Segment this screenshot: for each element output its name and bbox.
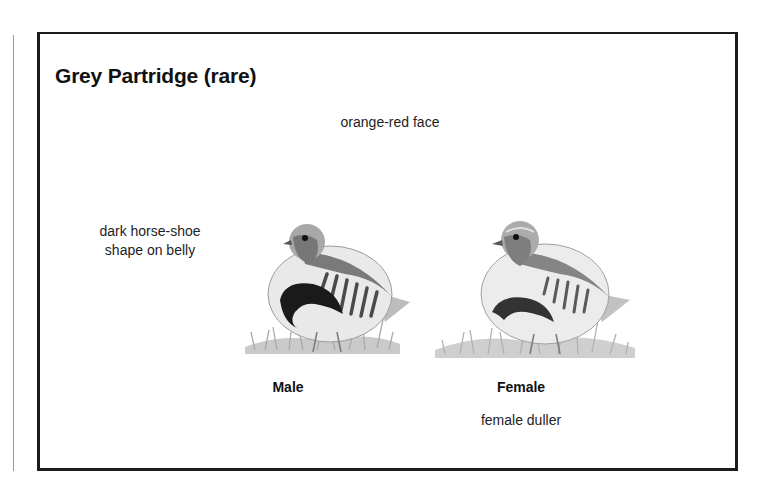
female-partridge-illustration xyxy=(430,182,645,362)
female-duller-annotation: female duller xyxy=(481,412,561,428)
face-annotation: orange-red face xyxy=(341,114,440,130)
eye-icon xyxy=(302,235,308,241)
species-card: Grey Partridge (rare) orange-red face da… xyxy=(37,32,738,471)
belly-annotation-line-2: shape on belly xyxy=(99,241,200,260)
eye-icon xyxy=(513,234,519,240)
male-partridge-illustration xyxy=(225,182,420,357)
belly-annotation-line-1: dark horse-shoe xyxy=(99,222,200,241)
species-title: Grey Partridge (rare) xyxy=(55,64,256,88)
beak-icon xyxy=(283,240,292,245)
female-caption: Female xyxy=(497,379,545,395)
beak-icon xyxy=(492,240,503,246)
margin-rule xyxy=(13,35,14,471)
belly-annotation: dark horse-shoe shape on belly xyxy=(99,222,200,260)
male-caption: Male xyxy=(272,379,303,395)
